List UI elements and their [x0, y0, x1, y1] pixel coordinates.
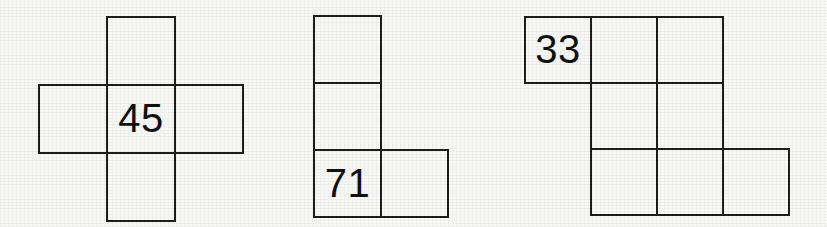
- grid-cell[interactable]: [106, 16, 176, 86]
- grid-cell[interactable]: [380, 149, 449, 218]
- grid-cell[interactable]: [722, 148, 790, 216]
- grid-cell[interactable]: [313, 82, 382, 151]
- cell-number-label: 33: [535, 29, 581, 69]
- cell-number-label: 45: [118, 98, 164, 138]
- grid-cell[interactable]: [656, 82, 724, 150]
- grid-cell[interactable]: [590, 82, 658, 150]
- cell-number-label: 71: [325, 163, 371, 203]
- grid-cell[interactable]: [656, 148, 724, 216]
- grid-cell[interactable]: [174, 84, 244, 154]
- grid-cell[interactable]: 71: [313, 149, 382, 218]
- grid-cell[interactable]: [313, 15, 382, 84]
- grid-cell[interactable]: [656, 16, 724, 84]
- grid-cell[interactable]: [106, 152, 176, 222]
- grid-cell[interactable]: [590, 16, 658, 84]
- grid-cell[interactable]: [590, 148, 658, 216]
- figure-canvas: 457133: [0, 0, 827, 227]
- grid-cell[interactable]: 33: [524, 16, 592, 84]
- grid-cell[interactable]: 45: [106, 84, 176, 154]
- grid-cell[interactable]: [38, 84, 108, 154]
